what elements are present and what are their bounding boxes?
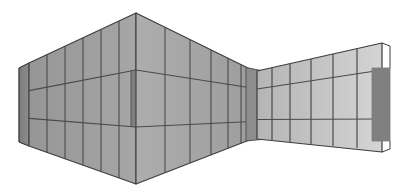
right-return-panel — [372, 43, 390, 141]
rendering-canvas — [0, 0, 403, 192]
left-return-panel — [19, 63, 29, 146]
perspective-wall-illustration — [0, 0, 403, 192]
